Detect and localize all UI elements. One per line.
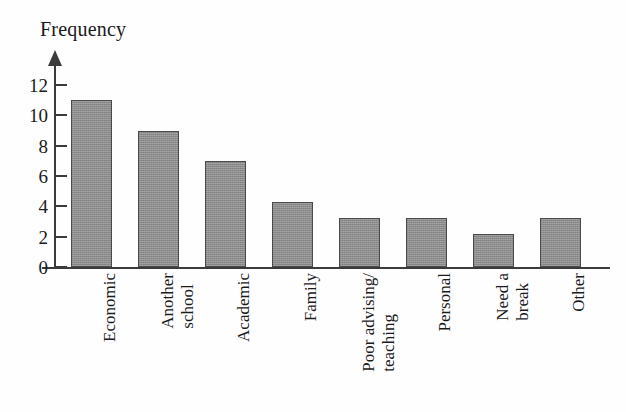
bar: [138, 131, 179, 268]
y-tick-mark: [56, 236, 67, 238]
x-tick-label: Academic: [235, 273, 253, 342]
bars-container: [0, 0, 626, 269]
x-tick-label: Anotherschool: [159, 273, 197, 329]
x-tick-label-line: Other: [570, 273, 588, 312]
x-tick-label-line: school: [178, 273, 196, 329]
x-tick-label-line: Personal: [436, 273, 454, 332]
x-tick-label: Need abreak: [494, 273, 532, 321]
y-tick-mark: [56, 205, 67, 207]
x-tick-label: Economic: [101, 273, 119, 342]
x-tick-label-line: Family: [302, 273, 320, 321]
x-tick-label-line: Poor advising/: [360, 273, 378, 372]
x-tick-label: Family: [302, 273, 320, 321]
x-tick-label: Other: [570, 273, 588, 312]
y-tick-mark: [56, 114, 67, 116]
x-tick-label-line: Academic: [235, 273, 253, 342]
x-tick-label-line: Economic: [101, 273, 119, 342]
bar: [540, 218, 581, 267]
bar-chart: Frequency 024681012 EconomicAnotherschoo…: [0, 0, 626, 412]
x-tick-label: Personal: [436, 273, 454, 332]
y-tick-mark: [56, 175, 67, 177]
x-tick-label-line: Need a: [494, 273, 512, 321]
bar: [272, 202, 313, 267]
x-tick-label-line: Another: [159, 273, 177, 329]
bar: [339, 218, 380, 267]
x-axis-labels: EconomicAnotherschoolAcademicFamilyPoor …: [0, 269, 626, 412]
y-tick-mark: [56, 266, 67, 268]
bar: [473, 234, 514, 267]
x-tick-label-line: teaching: [379, 273, 397, 372]
bar: [205, 161, 246, 267]
x-tick-label-line: break: [513, 273, 531, 321]
x-tick-label: Poor advising/teaching: [360, 273, 398, 372]
y-tick-mark: [56, 145, 67, 147]
bar: [406, 218, 447, 267]
y-tick-mark: [56, 84, 67, 86]
bar: [71, 100, 112, 267]
